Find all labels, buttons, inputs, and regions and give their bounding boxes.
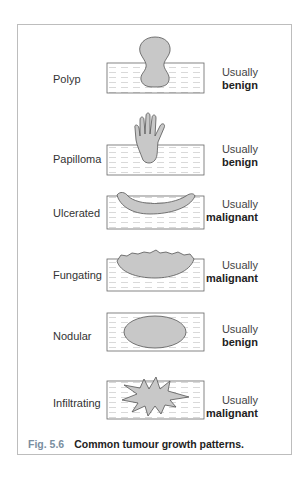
verdict-prefix: Usually	[222, 143, 258, 155]
verdict-polyp: Usuallybenign	[178, 66, 258, 92]
verdict-prefix: Usually	[222, 66, 258, 78]
row-label-fungating: Fungating	[53, 269, 102, 281]
verdict-fungating: Usuallymalignant	[178, 259, 258, 285]
caption-text: Common tumour growth patterns.	[74, 438, 244, 450]
row-label-polyp: Polyp	[53, 73, 81, 85]
verdict-prefix: Usually	[222, 394, 258, 406]
verdict-infiltrating: Usuallymalignant	[178, 394, 258, 420]
verdict-value: malignant	[178, 407, 258, 420]
verdict-value: benign	[178, 156, 258, 169]
verdict-papilloma: Usuallybenign	[178, 143, 258, 169]
verdict-ulcerated: Usuallymalignant	[178, 198, 258, 224]
verdict-value: benign	[178, 79, 258, 92]
row-label-nodular: Nodular	[53, 330, 92, 342]
verdict-prefix: Usually	[222, 198, 258, 210]
row-label-ulcerated: Ulcerated	[53, 207, 100, 219]
verdict-nodular: Usuallybenign	[178, 323, 258, 349]
row-label-infiltrating: Infiltrating	[53, 397, 101, 409]
nodular-shape	[124, 316, 186, 348]
verdict-value: benign	[178, 336, 258, 349]
row-label-papilloma: Papilloma	[53, 153, 101, 165]
verdict-prefix: Usually	[222, 323, 258, 335]
figure-caption: Fig. 5.6Common tumour growth patterns.	[28, 438, 244, 450]
verdict-value: malignant	[178, 211, 258, 224]
verdict-prefix: Usually	[222, 259, 258, 271]
polyp-shape	[140, 37, 170, 87]
figure-number: Fig. 5.6	[28, 438, 64, 450]
verdict-value: malignant	[178, 272, 258, 285]
